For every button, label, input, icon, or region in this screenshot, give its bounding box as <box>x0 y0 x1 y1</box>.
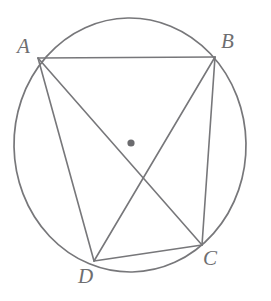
side-BC <box>202 57 215 245</box>
vertex-label-b: B <box>221 31 234 52</box>
side-CD <box>94 245 202 261</box>
geometry-figure: A B C D <box>0 0 271 301</box>
diagonal-BD <box>94 57 215 261</box>
vertex-label-c: C <box>203 248 217 269</box>
side-DA <box>38 58 94 261</box>
vertex-label-a: A <box>17 36 30 57</box>
circle-center-dot <box>127 139 134 146</box>
side-AB <box>38 57 215 58</box>
vertex-label-d: D <box>78 266 93 287</box>
